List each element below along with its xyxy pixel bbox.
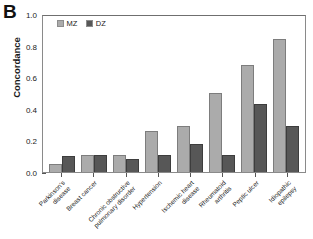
bar-mz bbox=[177, 126, 190, 172]
bar-dz bbox=[286, 126, 299, 172]
x-label-cell: Idiopathicepilepsy bbox=[271, 177, 303, 239]
y-tick-label: 0.8 bbox=[9, 42, 37, 51]
x-axis-labels: Parkinson'sdiseaseBreast cancerChronic o… bbox=[42, 177, 306, 239]
bar-dz bbox=[126, 159, 139, 172]
bar-dz bbox=[62, 156, 75, 172]
figure-panel-b: B Concordance 0.00.20.40.60.81.0 MZDZ Pa… bbox=[0, 0, 313, 239]
bar-dz bbox=[190, 144, 203, 172]
bar-mz bbox=[273, 39, 286, 172]
bar-group bbox=[46, 16, 78, 172]
bar-mz bbox=[145, 131, 158, 172]
bar-group bbox=[270, 16, 302, 172]
bar-mz bbox=[81, 155, 94, 172]
bar-dz bbox=[222, 155, 235, 172]
bar-dz bbox=[158, 155, 171, 172]
bar-mz bbox=[113, 155, 126, 172]
x-axis-label-line: Parkinson's bbox=[0, 179, 67, 239]
bar-group bbox=[238, 16, 270, 172]
bar-group bbox=[206, 16, 238, 172]
bar-group bbox=[174, 16, 206, 172]
bar-mz bbox=[209, 93, 222, 172]
bar-dz bbox=[254, 104, 267, 172]
bar-mz bbox=[241, 65, 254, 172]
y-tick-label: 0.6 bbox=[9, 74, 37, 83]
bar-groups bbox=[43, 16, 305, 172]
bar-group bbox=[110, 16, 142, 172]
plot-area: MZDZ bbox=[42, 15, 306, 173]
bar-dz bbox=[94, 155, 107, 172]
y-tick-label: 0.2 bbox=[9, 137, 37, 146]
y-tick-label: 1.0 bbox=[9, 11, 37, 20]
y-tick-label: 0.0 bbox=[9, 169, 37, 178]
bar-group bbox=[78, 16, 110, 172]
bar-mz bbox=[49, 164, 62, 172]
bar-group bbox=[142, 16, 174, 172]
y-tick-label: 0.4 bbox=[9, 105, 37, 114]
